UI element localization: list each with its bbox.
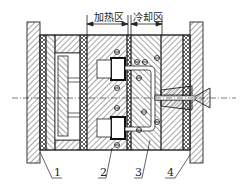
ejector-plate <box>58 56 68 136</box>
cavity-lower <box>111 117 125 139</box>
left-clamp-plate <box>27 22 40 163</box>
zone-label-heating: 加热区 <box>94 13 124 23</box>
zone-label-cooling: 冷却区 <box>133 13 163 23</box>
callout-4: 4 <box>167 167 174 178</box>
insulation-layer-2 <box>80 35 87 150</box>
cavity-upper <box>111 58 125 80</box>
callout-3: 3 <box>135 167 142 178</box>
callout-2: 2 <box>100 167 107 178</box>
insulation-layer-left <box>40 35 46 150</box>
mold-diagram <box>0 0 244 195</box>
separation-layer <box>127 35 131 150</box>
cooled-mold-plate <box>131 35 161 150</box>
callout-1: 1 <box>54 167 61 178</box>
